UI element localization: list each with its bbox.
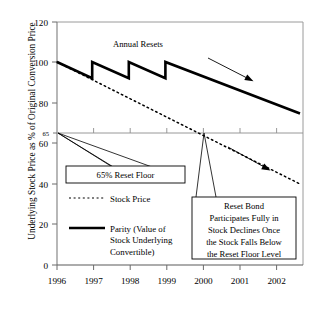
x-tick-label-1998: 1998 bbox=[121, 276, 140, 286]
annual-resets-label: Annual Resets bbox=[113, 39, 164, 49]
x-tick-label-2000: 2000 bbox=[194, 276, 213, 286]
x-tick-label-1997: 1997 bbox=[84, 276, 103, 286]
y-axis-ticks bbox=[52, 22, 57, 265]
series-parity bbox=[57, 62, 300, 114]
legend-label-parity-line1: Parity (Value of bbox=[110, 224, 166, 234]
x-tick-label-1996: 1996 bbox=[48, 276, 67, 286]
callout-line-5: the Reset Floor Level bbox=[207, 249, 282, 259]
y-tick-label-0: 0 bbox=[43, 261, 48, 271]
y-tick-label-80: 80 bbox=[39, 99, 49, 109]
y-axis-tick-labels: 120 100 80 65 60 40 20 0 bbox=[34, 18, 49, 271]
reset-floor-callout: 65% Reset Floor bbox=[58, 133, 185, 183]
x-tick-label-1999: 1999 bbox=[158, 276, 177, 286]
chart-legend: Stock Price Parity (Value of Stock Under… bbox=[69, 194, 173, 257]
stock-decline-arrow bbox=[228, 147, 271, 170]
legend-label-stock-price: Stock Price bbox=[110, 194, 150, 204]
y-tick-label-20: 20 bbox=[39, 220, 49, 230]
y-tick-label-100: 100 bbox=[34, 58, 48, 68]
legend-item-stock-price: Stock Price bbox=[69, 194, 150, 204]
y-tick-label-60: 60 bbox=[39, 139, 49, 149]
legend-label-parity-line2: Stock Underlying bbox=[110, 235, 173, 245]
y-tick-label-40: 40 bbox=[39, 180, 49, 190]
callout-line-3: Stock Declines Once bbox=[208, 225, 280, 235]
legend-label-parity-line3: Convertible) bbox=[110, 247, 155, 257]
y-tick-label-65: 65 bbox=[42, 130, 49, 137]
x-axis-ticks bbox=[57, 265, 277, 270]
reset-floor-box-label: 65% Reset Floor bbox=[97, 170, 155, 180]
chart-figure: Underlying Stock Price as % of Original … bbox=[0, 0, 318, 309]
x-axis-tick-labels: 1996 1997 1998 1999 2000 2001 2002 bbox=[48, 276, 286, 286]
callout-line-4: the Stock Falls Below bbox=[206, 237, 282, 247]
legend-item-parity: Parity (Value of Stock Underlying Conver… bbox=[69, 224, 173, 257]
y-tick-label-120: 120 bbox=[34, 18, 48, 28]
reset-bond-callout: Reset Bond Participates Fully in Stock D… bbox=[192, 133, 296, 259]
x-tick-label-2002: 2002 bbox=[267, 276, 286, 286]
callout-line-1: Reset Bond bbox=[224, 201, 265, 211]
x-tick-label-2001: 2001 bbox=[231, 276, 250, 286]
parity-decline-arrow bbox=[208, 58, 254, 81]
chart-canvas: 120 100 80 65 60 40 20 0 1996 1997 1998 … bbox=[0, 0, 318, 309]
callout-line-2: Participates Fully in bbox=[209, 213, 279, 223]
reset-floor-line bbox=[57, 128, 303, 133]
